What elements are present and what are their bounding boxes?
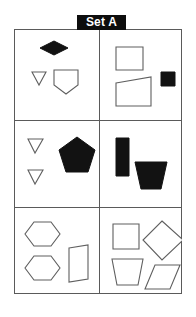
shape-rectangle-tall-black xyxy=(116,138,129,176)
cell-5-shapes xyxy=(16,209,99,293)
shape-trapezoid-white xyxy=(112,259,143,285)
shape-square-white xyxy=(113,224,139,249)
shape-rectangle-slanted-white xyxy=(69,245,88,282)
shape-rectangle-white xyxy=(116,47,143,70)
cell-3-shapes xyxy=(16,122,99,207)
shape-trapezoid-black xyxy=(135,162,167,189)
shape-triangle-down-lower-white xyxy=(28,170,43,184)
shape-grid xyxy=(14,29,182,294)
shape-pentagon-black xyxy=(59,137,95,172)
shape-parallelogram-white xyxy=(145,265,180,289)
shape-diamond-white xyxy=(143,221,182,260)
cell-1-shapes xyxy=(16,31,99,120)
grid-cell-middle-right xyxy=(100,122,182,207)
set-title-banner: Set A xyxy=(77,15,126,30)
shape-triangle-down-white xyxy=(32,72,46,85)
shape-diamond-black xyxy=(40,41,68,55)
shape-square-small-black xyxy=(161,72,175,86)
set-a-figure: Set A xyxy=(0,0,196,317)
cell-2-shapes xyxy=(100,31,182,120)
shape-hexagon-upper-white xyxy=(25,222,60,246)
grid-cell-bottom-left xyxy=(16,209,99,293)
shape-pentagon-shield-white xyxy=(54,70,78,94)
cell-6-shapes xyxy=(100,209,182,293)
grid-cell-top-right xyxy=(100,31,182,120)
cell-4-shapes xyxy=(100,122,182,207)
grid-cell-middle-left xyxy=(16,122,99,207)
grid-cell-bottom-right xyxy=(100,209,182,293)
shape-hexagon-lower-white xyxy=(25,256,60,280)
shape-quadrilateral-white xyxy=(116,77,151,106)
grid-cell-top-left xyxy=(16,31,99,120)
shape-triangle-down-upper-white xyxy=(28,139,43,153)
